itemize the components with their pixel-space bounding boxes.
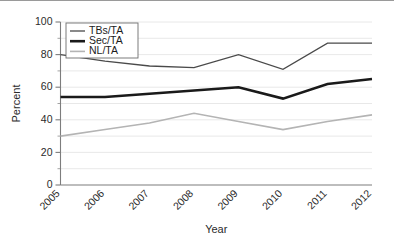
x-axis-title: Year xyxy=(205,223,228,235)
series-line-sec-ta xyxy=(61,79,373,99)
series-line-nl-ta xyxy=(61,113,373,136)
x-tick-label: 2011 xyxy=(304,187,329,212)
y-tick-label: 40 xyxy=(41,113,53,125)
y-tick-label: 80 xyxy=(41,48,53,60)
x-tick-label-group: 20052006200720082009201020112012 xyxy=(37,187,374,212)
chart-legend: TBs/TASec/TANL/TA xyxy=(66,23,138,58)
line-chart: 020406080100 200520062007200820092010201… xyxy=(0,1,394,243)
y-tick-label-group: 020406080100 xyxy=(35,15,53,190)
y-tick-label: 100 xyxy=(35,15,53,27)
y-tick-label: 60 xyxy=(41,80,53,92)
x-tick-label: 2005 xyxy=(37,187,62,212)
chart-figure: 020406080100 200520062007200820092010201… xyxy=(0,0,394,243)
legend-label: NL/TA xyxy=(89,44,118,56)
x-tick-label: 2009 xyxy=(215,187,240,212)
y-tick-label: 20 xyxy=(41,146,53,158)
y-axis-title: Percent xyxy=(10,85,22,123)
x-tick-label: 2008 xyxy=(170,187,195,212)
x-tick-label: 2006 xyxy=(81,187,106,212)
x-tick-label: 2012 xyxy=(348,187,373,212)
x-tick-label: 2010 xyxy=(259,187,284,212)
x-tick-label: 2007 xyxy=(126,187,151,212)
